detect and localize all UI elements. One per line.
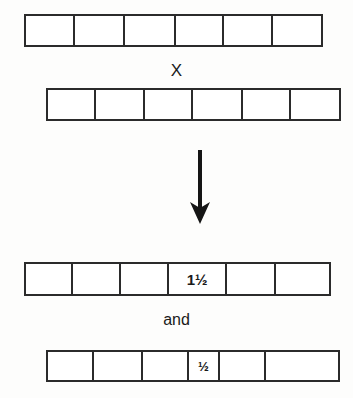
diagram-canvas: X — [0, 0, 353, 398]
strip-cell — [227, 264, 275, 294]
down-arrow-icon — [186, 148, 214, 226]
strip-cell — [176, 16, 224, 45]
strip-result-one-and-half: 1½ — [24, 262, 331, 296]
strip-cell — [193, 90, 243, 119]
strip-cell — [75, 16, 124, 45]
cell-label: 1½ — [187, 272, 208, 287]
strip-cell-labeled: ½ — [189, 352, 219, 380]
conjunction-label: and — [0, 312, 353, 328]
strip-cell — [94, 352, 142, 380]
strip-cell — [220, 352, 266, 380]
strip-cell — [273, 16, 321, 45]
cell-label: ½ — [198, 360, 209, 373]
strip-bottom-factor — [46, 88, 341, 121]
strip-cell — [276, 264, 329, 294]
strip-cell — [26, 264, 73, 294]
strip-cell — [48, 90, 96, 119]
strip-cell — [145, 90, 193, 119]
strip-cell — [224, 16, 272, 45]
strip-cell — [243, 90, 291, 119]
strip-result-half: ½ — [46, 350, 340, 382]
strip-cell — [48, 352, 94, 380]
strip-cell-labeled: 1½ — [169, 264, 227, 294]
strip-cell — [96, 90, 144, 119]
strip-top-factor — [24, 14, 323, 47]
strip-cell — [291, 90, 339, 119]
strip-cell — [125, 16, 176, 45]
multiply-operator-label: X — [0, 62, 353, 79]
strip-cell — [26, 16, 75, 45]
strip-cell — [121, 264, 169, 294]
strip-cell — [143, 352, 189, 380]
strip-cell — [266, 352, 338, 380]
strip-cell — [73, 264, 120, 294]
